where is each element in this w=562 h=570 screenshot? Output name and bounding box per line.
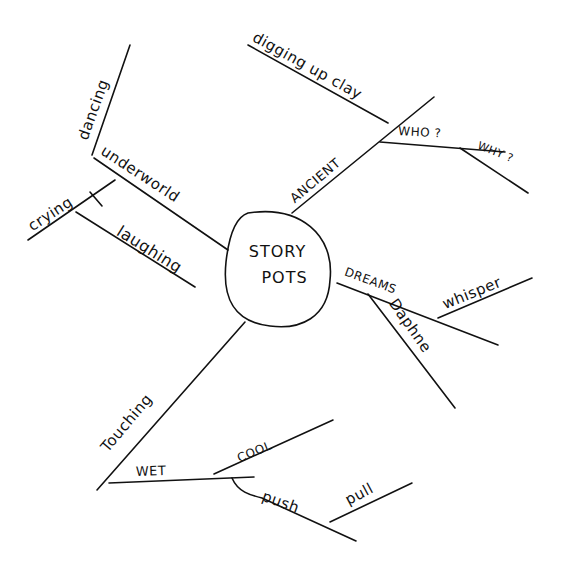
touching-branch-line — [97, 322, 245, 490]
label-wet: WET — [136, 464, 167, 478]
mind-map-canvas: STORY POTS ANCIENT digging up clay WHO ?… — [0, 0, 562, 570]
ancient-branch-line — [292, 97, 434, 213]
cool-line — [214, 420, 333, 474]
center-title-line1: STORY — [235, 242, 320, 261]
center-title-line2: POTS — [242, 268, 327, 287]
digging-line — [248, 45, 388, 123]
crying-tick — [90, 192, 102, 206]
label-who: WHO ? — [398, 125, 442, 139]
